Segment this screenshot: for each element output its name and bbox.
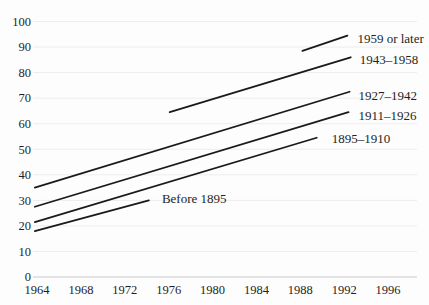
y-tick-label-10: 10 xyxy=(19,245,32,259)
y-tick-label-90: 90 xyxy=(19,40,32,54)
series-label-1943-1958: 1943–1958 xyxy=(360,52,419,67)
x-tick-label-1988: 1988 xyxy=(288,283,313,297)
cohort-trend-figure: 0102030405060708090100196419681972197619… xyxy=(0,0,429,305)
series-line-1943-1958 xyxy=(170,57,351,112)
x-tick-label-1996: 1996 xyxy=(376,283,401,297)
x-tick-label-1984: 1984 xyxy=(244,283,270,297)
y-tick-label-40: 40 xyxy=(19,168,32,182)
x-tick-label-1980: 1980 xyxy=(200,283,225,297)
series-label-1895-1910: 1895–1910 xyxy=(332,131,391,146)
y-tick-label-50: 50 xyxy=(19,143,32,157)
series-label-1927-1942: 1927–1942 xyxy=(359,88,418,103)
y-tick-label-100: 100 xyxy=(12,15,31,29)
series-line-1895-1910 xyxy=(35,138,317,222)
series-label-1959-or-later: 1959 or later xyxy=(357,31,424,46)
y-tick-label-80: 80 xyxy=(19,66,32,80)
cohort-trend-chart-canvas: 0102030405060708090100196419681972197619… xyxy=(0,0,429,305)
series-line-1959-or-later xyxy=(302,36,347,51)
y-tick-label-70: 70 xyxy=(19,91,32,105)
series-label-1911-1926: 1911–1926 xyxy=(359,108,418,123)
x-tick-label-1968: 1968 xyxy=(68,283,93,297)
x-tick-label-1992: 1992 xyxy=(332,283,357,297)
y-tick-label-20: 20 xyxy=(19,219,32,233)
x-tick-label-1976: 1976 xyxy=(156,283,181,297)
y-tick-label-60: 60 xyxy=(19,117,32,131)
series-label-before-1895: Before 1895 xyxy=(162,191,227,206)
x-tick-label-1964: 1964 xyxy=(25,283,51,297)
y-tick-label-30: 30 xyxy=(19,194,32,208)
x-tick-label-1972: 1972 xyxy=(112,283,137,297)
